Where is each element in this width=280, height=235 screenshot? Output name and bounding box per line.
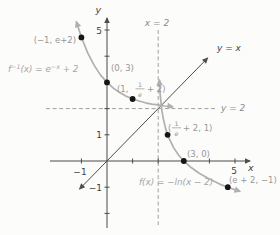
x-axis-label: x bbox=[247, 162, 254, 173]
plot-canvas: y x 5 1 −1 −1 5 x = 2 y = 2 y = x f−1(x)… bbox=[0, 0, 280, 235]
data-point bbox=[130, 96, 136, 102]
y-tick-5: 5 bbox=[96, 26, 102, 36]
y-tick-neg1: −1 bbox=[89, 183, 102, 193]
fraction-denominator: e bbox=[138, 91, 142, 98]
data-point bbox=[181, 158, 187, 164]
point-label-0-3: (0, 3) bbox=[111, 63, 134, 73]
label-part: (1, bbox=[117, 84, 128, 94]
vertical-asymptote-label: x = 2 bbox=[144, 18, 170, 28]
inverse-function-graph-figure: y x 5 1 −1 −1 5 x = 2 y = 2 y = x f−1(x)… bbox=[0, 0, 280, 235]
fraction-denominator: e bbox=[175, 130, 179, 137]
point-label-neg1-eplus2: (−1, e+2) bbox=[34, 35, 76, 45]
fraction-numerator: 1 bbox=[174, 120, 178, 127]
x-tick-neg1: −1 bbox=[73, 167, 86, 177]
point-label-oneovere-plus2-1: ( 1 e + 2, 1) bbox=[168, 120, 212, 137]
label-part: ( bbox=[168, 123, 171, 133]
data-point bbox=[79, 35, 85, 41]
inverse-function-equation-label: f−1(x) = e−x + 2 bbox=[8, 63, 79, 75]
y-tick-1: 1 bbox=[96, 130, 102, 140]
data-point bbox=[104, 80, 110, 86]
label-part: + 2, 1) bbox=[183, 123, 212, 133]
label-part: + 2) bbox=[147, 84, 166, 94]
horizontal-asymptote-label: y = 2 bbox=[220, 103, 246, 113]
fraction-numerator: 1 bbox=[138, 81, 142, 88]
point-label-3-0: (3, 0) bbox=[187, 149, 210, 159]
function-equation-label: f(x) = −ln(x − 2) bbox=[139, 177, 213, 187]
point-label-eplus2-neg1: (e + 2, −1) bbox=[229, 175, 277, 185]
y-axis-label: y bbox=[94, 4, 101, 15]
function-curve bbox=[159, 80, 240, 192]
data-point bbox=[225, 184, 231, 190]
identity-line-label: y = x bbox=[216, 43, 242, 53]
